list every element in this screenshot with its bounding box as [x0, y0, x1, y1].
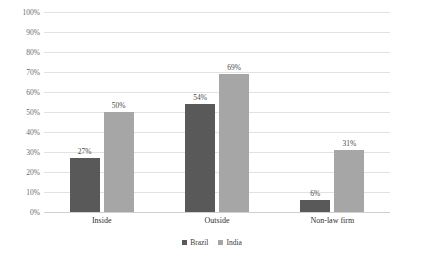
bar-chart: 0%10%20%30%40%50%60%70%80%90%100% 27%50%… [0, 0, 424, 263]
legend-item-india[interactable]: India [218, 238, 241, 247]
bar-brazil-non-law-firm[interactable]: 6% [300, 200, 330, 212]
bar-group-non-law-firm: 6%31% [300, 12, 364, 212]
bar-value-label: 50% [112, 101, 126, 110]
bar-value-label: 27% [78, 147, 92, 156]
y-axis-tick-label: 40% [0, 128, 40, 137]
bar-india-inside[interactable]: 50% [104, 112, 134, 212]
gridline-0% [44, 212, 390, 213]
legend-swatch-brazil-icon [182, 240, 187, 245]
legend-label: Brazil [190, 238, 208, 247]
legend-item-brazil[interactable]: Brazil [182, 238, 208, 247]
bar-value-label: 6% [310, 189, 320, 198]
bar-india-outside[interactable]: 69% [219, 74, 249, 212]
y-axis-tick-label: 90% [0, 28, 40, 37]
x-axis-label-non-law-firm: Non-law firm [310, 216, 354, 225]
y-axis-tick-label: 10% [0, 188, 40, 197]
legend-label: India [226, 238, 241, 247]
bar-value-label: 69% [227, 63, 241, 72]
bar-group-outside: 54%69% [185, 12, 249, 212]
x-axis-category-labels: InsideOutsideNon-law firm [44, 216, 390, 232]
y-axis-tick-label: 60% [0, 88, 40, 97]
bar-group-inside: 27%50% [70, 12, 134, 212]
x-axis-label-inside: Inside [92, 216, 112, 225]
y-axis-tick-label: 0% [0, 208, 40, 217]
y-axis-tick-label: 30% [0, 148, 40, 157]
bar-brazil-outside[interactable]: 54% [185, 104, 215, 212]
plot-area: 27%50%54%69%6%31% [44, 12, 390, 212]
y-axis-tick-label: 20% [0, 168, 40, 177]
y-axis-tick-label: 80% [0, 48, 40, 57]
chart-legend: BrazilIndia [0, 238, 424, 247]
y-axis: 0%10%20%30%40%50%60%70%80%90%100% [0, 12, 40, 212]
y-axis-tick-label: 100% [0, 8, 40, 17]
y-axis-tick-label: 70% [0, 68, 40, 77]
bar-india-non-law-firm[interactable]: 31% [334, 150, 364, 212]
legend-swatch-india-icon [218, 240, 223, 245]
bar-brazil-inside[interactable]: 27% [70, 158, 100, 212]
x-axis-label-outside: Outside [205, 216, 230, 225]
bar-value-label: 54% [193, 93, 207, 102]
y-axis-tick-label: 50% [0, 108, 40, 117]
bar-value-label: 31% [342, 139, 356, 148]
